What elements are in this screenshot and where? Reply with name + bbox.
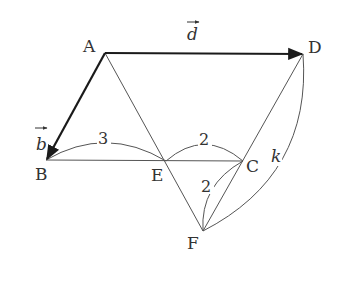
length-DF: k — [271, 146, 281, 166]
point-B-label: B — [35, 164, 48, 184]
length-EC: 2 — [199, 130, 209, 149]
segment-BC — [46, 160, 243, 161]
point-E-label: E — [151, 165, 163, 185]
vector-b-label: b — [36, 134, 47, 154]
point-A-label: A — [82, 36, 96, 56]
segment-AF — [105, 53, 203, 231]
vector-d-label: d — [187, 24, 198, 44]
length-CF: 2 — [201, 177, 211, 196]
length-BE: 3 — [98, 129, 108, 148]
point-F-label: F — [187, 233, 199, 253]
vector-d-arrow — [105, 53, 302, 54]
segment-DF — [203, 54, 303, 231]
geometry-diagram: 3 2 2 k A D B E C F d b — [0, 0, 348, 281]
point-C-label: C — [246, 156, 259, 176]
point-D-label: D — [308, 37, 322, 57]
